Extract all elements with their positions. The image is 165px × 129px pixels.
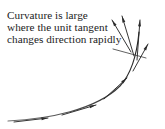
curvature-figure: Curvature is large where the unit tangen… <box>0 0 165 129</box>
caption-line-3: changes direction rapidly <box>7 33 119 45</box>
tangent-arrowhead <box>122 16 125 23</box>
tangent-vector-2 <box>62 105 96 115</box>
tangent-arrowhead <box>144 44 148 50</box>
caption-line-1: Curvature is large <box>7 9 119 21</box>
tangent-vector-3 <box>104 78 127 99</box>
tangent-vector-6 <box>122 16 134 56</box>
tangent-vector-1 <box>14 117 48 122</box>
parametric-curve <box>8 32 139 121</box>
caption-line-2: where the unit tangent <box>7 21 119 33</box>
tangent-vector-4 <box>133 44 148 71</box>
figure-caption: Curvature is large where the unit tangen… <box>7 9 119 45</box>
tangent-arrowhead <box>89 105 96 108</box>
